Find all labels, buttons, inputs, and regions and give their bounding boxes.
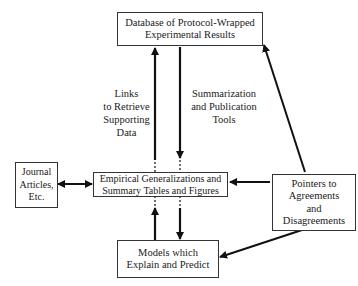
edge-label-links: Links to Retrieve Supporting Data bbox=[100, 87, 153, 139]
node-pointers: Pointers to Agreements and Disagreements bbox=[272, 174, 356, 231]
edge-label-summarization-line-2: and Publication bbox=[184, 100, 264, 113]
node-database-line-2: Experimental Results bbox=[145, 29, 235, 42]
edge-label-summarization-line-3: Tools bbox=[184, 113, 264, 126]
node-database: Database of Protocol-Wrapped Experimenta… bbox=[117, 12, 263, 46]
edge-label-summarization-line-1: Summarization bbox=[184, 87, 264, 100]
arrow-pointers-to-database bbox=[264, 45, 305, 172]
edge-label-links-line-4: Data bbox=[100, 126, 153, 139]
edge-label-links-line-1: Links bbox=[100, 87, 153, 100]
node-journal-line-3: Etc. bbox=[29, 191, 45, 204]
node-journal-line-2: Articles, bbox=[19, 179, 53, 192]
node-empirical-line-1: Empirical Generalizations and bbox=[100, 173, 222, 185]
edge-label-links-line-2: to Retrieve bbox=[100, 100, 153, 113]
node-empirical-line-2: Summary Tables and Figures bbox=[102, 185, 219, 197]
node-pointers-line-2: Agreements bbox=[289, 190, 340, 203]
node-pointers-line-1: Pointers to bbox=[291, 178, 336, 191]
node-journal-line-1: Journal bbox=[22, 166, 51, 179]
node-models: Models which Explain and Predict bbox=[117, 240, 219, 278]
node-models-line-2: Explain and Predict bbox=[127, 259, 210, 272]
node-models-line-1: Models which bbox=[138, 247, 198, 260]
node-empirical: Empirical Generalizations and Summary Ta… bbox=[93, 172, 228, 197]
node-pointers-line-4: Disagreements bbox=[283, 215, 345, 228]
edge-label-links-line-3: Supporting bbox=[100, 113, 153, 126]
edge-label-summarization: Summarization and Publication Tools bbox=[184, 87, 264, 126]
node-pointers-line-3: and bbox=[306, 203, 321, 216]
node-database-line-1: Database of Protocol-Wrapped bbox=[125, 17, 255, 30]
arrow-pointers-to-models bbox=[220, 230, 302, 257]
node-journal: Journal Articles, Etc. bbox=[15, 162, 58, 208]
